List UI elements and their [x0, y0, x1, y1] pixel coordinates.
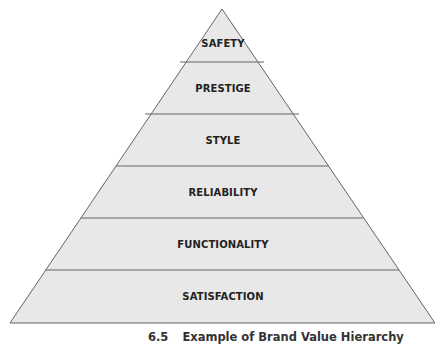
- level-prestige: PRESTIGE: [0, 83, 446, 94]
- level-satisfaction: SATISFACTION: [0, 291, 446, 302]
- level-style: STYLE: [0, 135, 446, 146]
- figure-caption: 6.5Example of Brand Value Hierarchy: [148, 330, 404, 344]
- level-reliability: RELIABILITY: [0, 187, 446, 198]
- level-safety: SAFETY: [0, 38, 446, 49]
- figure-number: 6.5: [148, 330, 168, 344]
- figure-caption-text: Example of Brand Value Hierarchy: [182, 330, 403, 344]
- level-functionality: FUNCTIONALITY: [0, 239, 446, 250]
